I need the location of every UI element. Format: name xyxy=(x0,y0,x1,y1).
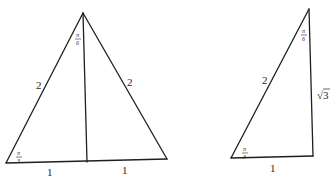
left-triangle: 2 2 1 1 π 6 π 3 xyxy=(6,13,167,178)
svg-text:π: π xyxy=(243,146,247,152)
right-base-label: 1 xyxy=(270,162,276,174)
svg-text:3: 3 xyxy=(242,154,246,160)
left-triangle-altitude xyxy=(83,13,87,162)
left-triangle-left-side xyxy=(6,13,83,163)
right-triangle-hypotenuse xyxy=(231,9,309,158)
hypotenuse-label: 2 xyxy=(262,74,268,86)
right-triangle: 2 √3 1 π 6 π 3 xyxy=(231,9,330,174)
apex-angle-label: π 6 xyxy=(75,32,81,46)
svg-text:π: π xyxy=(302,28,306,34)
bottom-left-angle-label: π 3 xyxy=(16,150,22,164)
left-triangle-right-side xyxy=(83,13,167,159)
right-side-label: 2 xyxy=(127,76,133,88)
left-side-label: 2 xyxy=(36,79,42,91)
svg-text:6: 6 xyxy=(76,40,79,46)
right-triangle-vertical-side xyxy=(309,9,313,156)
vertical-side-label: √3 xyxy=(317,89,329,101)
svg-text:6: 6 xyxy=(302,36,305,42)
svg-text:3: 3 xyxy=(16,158,20,164)
base-left-label: 1 xyxy=(47,166,53,178)
svg-text:π: π xyxy=(17,150,21,156)
diagram-canvas: 2 2 1 1 π 6 π 3 2 √3 1 π 6 π 3 xyxy=(0,0,333,179)
base-right-label: 1 xyxy=(122,164,128,176)
right-apex-angle-label: π 6 xyxy=(301,28,307,42)
svg-text:π: π xyxy=(76,32,80,38)
